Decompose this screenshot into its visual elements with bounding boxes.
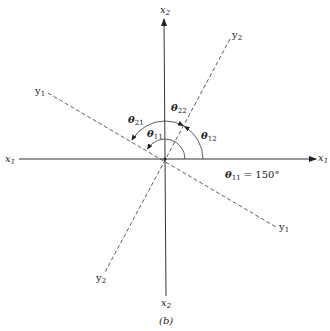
y1-axis	[48, 93, 276, 227]
y2-axis	[104, 39, 230, 274]
y1-right-label: y1	[279, 222, 289, 234]
theta11-label: θ11	[147, 129, 163, 141]
origin-point	[164, 158, 167, 161]
theta12-label: θ12	[201, 131, 217, 143]
theta21-label: θ21	[128, 115, 144, 127]
y2-bottom-label: y2	[96, 273, 106, 285]
y1-left-label: y1	[35, 86, 45, 98]
x1-right-label: x1	[318, 153, 328, 165]
x2-bottom-label: x2	[161, 298, 171, 310]
theta11-arc	[148, 139, 185, 159]
theta22-label: θ22	[171, 103, 187, 115]
x1-left-label: x1	[5, 154, 15, 166]
figure-caption: (b)	[159, 316, 173, 326]
rotation-diagram	[0, 0, 330, 331]
x2-top-label: x2	[160, 5, 170, 17]
y2-top-label: y2	[232, 30, 242, 42]
theta22-arc	[165, 121, 183, 126]
theta11-value-annotation: θ11 = 150°	[225, 170, 279, 182]
